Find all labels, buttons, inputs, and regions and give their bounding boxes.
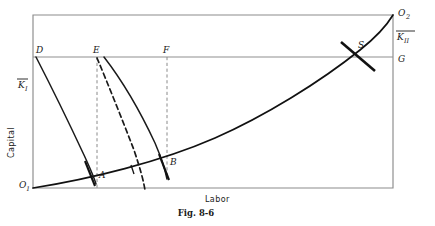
isoquant-from-e-solid — [104, 57, 167, 179]
point-label-f: F — [162, 45, 170, 55]
point-label-d: D — [35, 45, 43, 55]
point-label-s: S — [358, 40, 364, 50]
point-label-b: B — [169, 157, 177, 167]
figure-8-6: O 1 O 2 K I K II D E F G S A — [0, 0, 435, 226]
origin-label-o1: O 1 — [19, 180, 30, 193]
point-label-g: G — [398, 54, 405, 64]
svg-text:I: I — [24, 85, 28, 93]
svg-text:2: 2 — [405, 13, 410, 21]
x-axis-title: Labor — [205, 195, 230, 204]
svg-text:1: 1 — [26, 185, 30, 193]
edgeworth-box-diagram: O 1 O 2 K I K II D E F G S A — [0, 0, 435, 226]
figure-caption: Fig. 8-6 — [178, 208, 215, 218]
point-label-e: E — [92, 45, 100, 55]
capital-endowment-label-firm-1: K I — [17, 79, 28, 93]
svg-text:O: O — [398, 8, 406, 18]
y-axis-title: Capital — [7, 127, 16, 158]
tangent-stroke-at-a — [85, 161, 95, 186]
origin-label-o2: O 2 — [398, 8, 410, 21]
capital-endowment-label-firm-2: K II — [396, 31, 415, 45]
svg-text:II: II — [403, 37, 410, 45]
point-label-a: A — [98, 170, 106, 180]
